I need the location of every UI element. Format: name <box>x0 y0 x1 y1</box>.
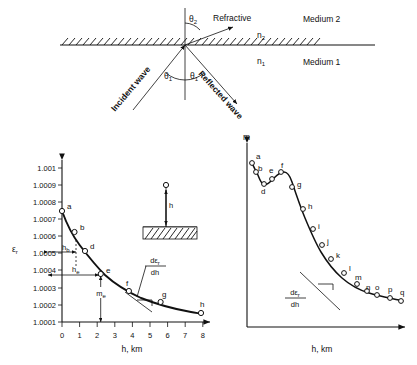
left-chart-derivative-leader <box>137 266 146 297</box>
left-xtick-0: 0 <box>60 331 64 340</box>
right-point-label-m: m <box>355 273 362 282</box>
left-ytick-4: 1.0004 <box>33 266 56 275</box>
left-data-point-b <box>72 229 77 234</box>
right-point-label-p: p <box>388 285 393 294</box>
left-derivative-denominator: dh <box>151 268 159 277</box>
right-data-point-q <box>399 299 404 304</box>
left-xtick-1: 1 <box>78 331 82 340</box>
figure-container: θ2 Refractive n2 n1 Medium 2 Medium 1 θ1… <box>0 0 417 365</box>
inset-point-marker <box>163 182 168 187</box>
right-point-label-e: e <box>269 166 274 175</box>
left-xtick-6: 6 <box>166 331 170 340</box>
right-point-label-a: a <box>256 152 261 161</box>
left-ytick-8: 1.0008 <box>33 198 56 207</box>
left-data-point-h <box>198 310 203 315</box>
right-data-point-e <box>270 177 275 182</box>
left-chart: 1.001 1.0009 1.0008 1.0007 1.0006 1.0005… <box>12 160 210 354</box>
left-data-point-d <box>82 248 87 253</box>
right-data-point-a <box>250 161 255 166</box>
left-point-label-b: b <box>80 223 85 232</box>
left-point-label-g: g <box>162 290 166 299</box>
right-point-label-q: q <box>400 288 404 297</box>
figure-svg: θ2 Refractive n2 n1 Medium 2 Medium 1 θ1… <box>0 0 417 365</box>
theta2-arc <box>185 23 200 30</box>
left-ytick-3: 1.0003 <box>33 284 56 293</box>
right-point-label-j: j <box>326 237 329 246</box>
right-point-label-i: i <box>318 222 320 231</box>
left-xtick-5: 5 <box>148 331 152 340</box>
left-ytick-5: 1.0005 <box>33 249 56 258</box>
right-data-point-d <box>262 182 267 187</box>
right-data-point-g <box>290 185 295 190</box>
left-point-label-a: a <box>67 202 72 211</box>
right-point-label-o: o <box>375 283 380 292</box>
n1-label: n1 <box>257 56 266 67</box>
left-point-label-d: d <box>90 242 94 251</box>
theta1-reflected-label: θ1 <box>190 71 199 82</box>
right-point-label-b: b <box>258 164 263 173</box>
refractive-label: Refractive <box>213 13 252 23</box>
theta2-label: θ2 <box>189 14 198 25</box>
incident-wave-label: Incident wave <box>109 64 153 113</box>
top-refraction-diagram: θ2 Refractive n2 n1 Medium 2 Medium 1 θ1… <box>60 8 375 121</box>
right-data-point-h <box>301 207 306 212</box>
right-data-point-f <box>279 170 284 175</box>
right-data-point-l <box>342 271 347 276</box>
right-data-point-i <box>311 227 316 232</box>
right-point-label-h: h <box>308 202 312 211</box>
left-point-label-e: e <box>106 266 111 275</box>
left-ytick-10: 1.001 <box>37 164 56 173</box>
left-ytick-1: 1.0001 <box>33 318 56 327</box>
left-ytick-6: 1.0006 <box>33 232 56 241</box>
right-data-point-k <box>329 257 334 262</box>
right-data-point-p <box>388 296 393 301</box>
he-label: he <box>72 265 80 275</box>
right-derivative-denominator: dh <box>291 300 299 309</box>
left-point-label-f: f <box>126 279 129 288</box>
left-ytick-9: 1.0009 <box>33 181 56 190</box>
left-derivative-numerator: dεr <box>150 256 160 266</box>
left-ytick-2: 1.0002 <box>33 301 56 310</box>
inset-height-diagram: h <box>143 182 197 239</box>
left-data-point-f <box>126 288 131 293</box>
left-xtick-4: 4 <box>130 331 134 340</box>
me-label: me <box>96 289 106 299</box>
left-xtick-3: 3 <box>113 331 117 340</box>
right-chart-curve <box>252 163 399 300</box>
left-point-label-h: h <box>200 300 204 309</box>
right-chart: m h, km dεr dh a b d e f <box>243 132 405 354</box>
left-data-point-g <box>158 299 163 304</box>
interface-hatching <box>62 38 320 45</box>
theta1-incident-label: θ1 <box>164 71 173 82</box>
left-chart-x-ticks <box>62 322 203 327</box>
left-xtick-8: 8 <box>201 331 205 340</box>
right-chart-derivative-bracket <box>318 284 333 290</box>
right-data-point-j <box>320 243 325 248</box>
right-point-label-f: f <box>281 161 284 170</box>
right-chart-tangent-line <box>300 272 340 310</box>
left-xtick-2: 2 <box>95 331 99 340</box>
right-point-label-d: d <box>261 187 265 196</box>
left-chart-ylabel: εr <box>12 244 18 255</box>
left-data-point-a <box>59 208 64 213</box>
right-chart-ylabel: m <box>243 132 250 142</box>
left-ytick-7: 1.0007 <box>33 215 56 224</box>
right-data-point-m <box>355 282 360 287</box>
right-point-label-g: g <box>297 180 301 189</box>
right-derivative-numerator: dεr <box>290 288 300 298</box>
n2-label: n2 <box>257 30 266 41</box>
left-chart-xlabel: h, km <box>122 344 143 354</box>
right-point-label-n: n <box>366 283 370 292</box>
inset-h-label: h <box>169 201 173 210</box>
right-point-label-l: l <box>349 264 351 273</box>
right-chart-xlabel: h, km <box>312 344 333 354</box>
left-chart-tangent-line <box>125 292 152 312</box>
reflected-wave-label: Reflected wave <box>197 69 246 122</box>
right-point-label-k: k <box>336 251 341 260</box>
hb-label: hb <box>62 243 70 253</box>
left-xtick-7: 7 <box>183 331 187 340</box>
right-data-point-o <box>375 293 380 298</box>
medium2-label: Medium 2 <box>303 14 341 24</box>
medium1-label: Medium 1 <box>303 57 341 67</box>
left-data-point-e <box>98 271 103 276</box>
